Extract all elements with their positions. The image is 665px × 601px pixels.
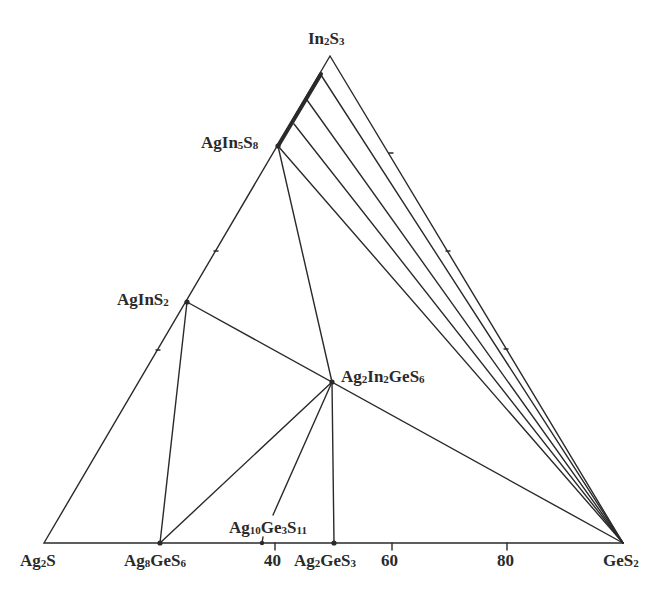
label-ag2s: Ag2S xyxy=(20,552,56,569)
tick-label-40: 40 xyxy=(264,552,281,569)
point-ag10ge3s11 xyxy=(260,541,264,545)
point-agin5s8 xyxy=(275,143,280,148)
ternary-diagram xyxy=(0,0,665,601)
point-ag8ges6 xyxy=(157,540,162,545)
tie-line-ag2in2ges6-ag2ges3 xyxy=(332,382,334,543)
tie-line-ss1-ges2 xyxy=(321,75,623,543)
label-agins2: AgInS2 xyxy=(117,291,169,308)
tie-line-ss2-ges2 xyxy=(307,100,623,543)
label-ag10ge3s11: Ag10Ge3S11 xyxy=(229,519,307,536)
label-in2s3: In2S3 xyxy=(308,30,345,47)
tie-line-ss3-ges2 xyxy=(294,124,623,543)
label-ag2in2ges6: Ag2In2GeS6 xyxy=(341,368,425,385)
point-agins2 xyxy=(184,299,189,304)
tie-line-agin5s8-ag2in2ges6 xyxy=(278,146,332,382)
tick-label-60: 60 xyxy=(381,552,398,569)
tie-line-agin5s8-ges2 xyxy=(278,146,623,543)
label-ges2: GeS2 xyxy=(603,552,639,569)
tie-line-ag2in2ges6-ag10ge3s11 xyxy=(273,382,332,515)
point-ag2in2ges6 xyxy=(329,379,334,384)
tie-line-agins2-ges2 xyxy=(187,302,623,543)
point-ag2ges3 xyxy=(331,540,336,545)
tick-label-80: 80 xyxy=(497,552,514,569)
label-ag8ges6: Ag8GeS6 xyxy=(124,552,186,569)
label-ag2ges3: Ag2GeS3 xyxy=(294,552,356,569)
label-agin5s8: AgIn5S8 xyxy=(201,134,258,151)
